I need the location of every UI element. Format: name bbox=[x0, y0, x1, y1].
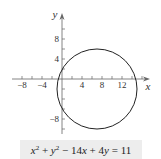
equation-caption: x2 + y2 − 14x + 4y = 11 bbox=[20, 140, 142, 159]
eq-term: − 14 bbox=[62, 144, 82, 156]
x-tick-label: 4 bbox=[80, 80, 85, 90]
x-tick-label: 8 bbox=[100, 80, 105, 90]
eq-term: + 4 bbox=[90, 144, 104, 156]
eq-exp: 2 bbox=[36, 144, 40, 152]
x-tick-label: −8 bbox=[17, 80, 27, 90]
eq-exp: 2 bbox=[56, 144, 60, 152]
chart-canvas: −8 −4 4 8 12 8 4 −8 x y bbox=[0, 0, 161, 159]
y-tick-label: −8 bbox=[49, 114, 59, 124]
y-tick-label: 8 bbox=[55, 34, 60, 44]
eq-x: x bbox=[82, 144, 87, 156]
x-tick-label: 12 bbox=[118, 80, 127, 90]
x-axis-label: x bbox=[145, 80, 151, 92]
y-tick-label: 4 bbox=[55, 54, 60, 64]
eq-y: y bbox=[104, 144, 109, 156]
eq-rhs: = 11 bbox=[112, 144, 132, 156]
x-ticks bbox=[22, 76, 142, 79]
x-tick-label: −4 bbox=[37, 80, 47, 90]
y-axis-label: y bbox=[52, 8, 58, 20]
